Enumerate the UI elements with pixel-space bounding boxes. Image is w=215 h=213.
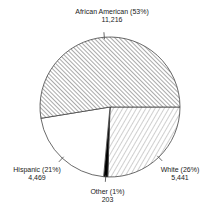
label-other-name: Other (1%) xyxy=(80,188,135,196)
leader-tick xyxy=(104,32,105,39)
pie-slices xyxy=(40,37,180,177)
slice-african-american xyxy=(40,37,180,118)
label-hispanic-value: 4,469 xyxy=(2,174,72,182)
label-white-value: 5,441 xyxy=(150,174,210,182)
label-white: White (26%) 5,441 xyxy=(150,166,210,182)
label-african-american: African American (53%) 11,216 xyxy=(62,8,162,24)
label-hispanic: Hispanic (21%) 4,469 xyxy=(2,166,72,182)
label-other: Other (1%) 203 xyxy=(80,188,135,204)
label-other-value: 203 xyxy=(80,196,135,204)
label-white-name: White (26%) xyxy=(150,166,210,174)
label-hispanic-name: Hispanic (21%) xyxy=(2,166,72,174)
label-african-american-name: African American (53%) xyxy=(62,8,162,16)
label-african-american-value: 11,216 xyxy=(62,16,162,24)
